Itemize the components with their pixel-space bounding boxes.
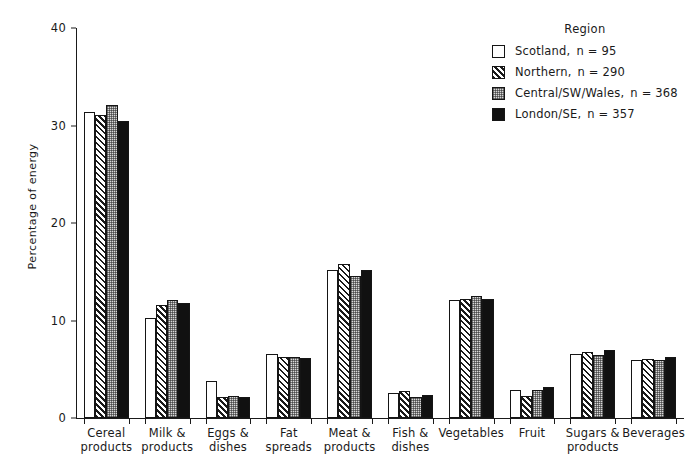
y-tick-label: 20 — [20, 216, 66, 230]
bar — [106, 105, 117, 418]
x-tick-mark — [433, 419, 434, 424]
bar — [178, 303, 189, 418]
legend-swatch — [492, 87, 505, 100]
x-tick-mark — [510, 419, 511, 424]
x-tick-mark — [494, 419, 495, 424]
bar — [449, 300, 460, 418]
bar — [239, 397, 250, 418]
bar — [145, 318, 156, 418]
legend-sample-size: n = 95 — [576, 44, 616, 58]
bar — [156, 305, 167, 418]
bar — [350, 276, 361, 418]
bar — [84, 112, 95, 418]
legend-item: London/SE,n = 357 — [492, 105, 678, 123]
legend-title: Region — [492, 22, 678, 36]
x-tick-mark — [554, 419, 555, 424]
bar — [642, 359, 653, 418]
bar — [604, 350, 615, 418]
bar — [570, 354, 581, 418]
bar — [582, 352, 593, 418]
bar — [338, 264, 349, 418]
x-tick-mark — [631, 419, 632, 424]
bar — [95, 115, 106, 418]
x-axis-label-line: products — [554, 441, 631, 455]
legend-item: Scotland,n = 95 — [492, 42, 678, 60]
legend-swatch — [492, 45, 505, 58]
x-tick-mark — [84, 419, 85, 424]
bar-group — [266, 28, 311, 418]
bar — [593, 355, 604, 418]
bar — [543, 387, 554, 418]
bar — [361, 270, 372, 418]
x-axis-label-line: dishes — [372, 441, 449, 455]
legend-swatch — [492, 66, 505, 79]
bar — [388, 393, 399, 418]
x-tick-mark — [327, 419, 328, 424]
bar — [327, 270, 338, 418]
legend-sample-size: n = 357 — [587, 107, 635, 121]
bar — [510, 390, 521, 418]
bar — [482, 299, 493, 418]
bar-group — [145, 28, 190, 418]
x-tick-mark — [145, 419, 146, 424]
legend-label: Northern, — [515, 65, 572, 79]
y-tick-label: 30 — [20, 119, 66, 133]
bar — [521, 396, 532, 418]
bar-group — [388, 28, 433, 418]
bar — [300, 358, 311, 418]
x-tick-mark — [206, 419, 207, 424]
bar-group — [449, 28, 494, 418]
bar — [289, 357, 300, 418]
x-tick-mark — [129, 419, 130, 424]
bar — [217, 397, 228, 418]
y-tick-label: 10 — [20, 314, 66, 328]
bar — [654, 360, 665, 418]
legend-label: Central/SW/Wales, — [515, 86, 624, 100]
x-tick-mark — [615, 419, 616, 424]
legend-label: London/SE, — [515, 107, 581, 121]
chart-legend: Region Scotland,n = 95Northern,n = 290Ce… — [492, 22, 678, 126]
x-tick-mark — [449, 419, 450, 424]
bar-group — [327, 28, 372, 418]
bar — [460, 299, 471, 418]
bar — [228, 396, 239, 418]
bar — [206, 381, 217, 418]
bar — [118, 121, 129, 418]
legend-label: Scotland, — [515, 44, 570, 58]
bar — [410, 397, 421, 418]
legend-item: Northern,n = 290 — [492, 63, 678, 81]
y-tick-label: 0 — [20, 411, 66, 425]
x-axis-label-line: Beverages — [615, 427, 688, 441]
bar — [631, 360, 642, 419]
bar — [278, 357, 289, 418]
x-tick-mark — [676, 419, 677, 424]
legend-sample-size: n = 368 — [630, 86, 678, 100]
bar — [665, 357, 676, 418]
bar-group — [84, 28, 129, 418]
bar — [266, 354, 277, 418]
x-tick-mark — [250, 419, 251, 424]
legend-swatch — [492, 108, 505, 121]
bar-chart: Percentage of energy 010203040 Cerealpro… — [0, 0, 688, 470]
legend-entries: Scotland,n = 95Northern,n = 290Central/S… — [492, 42, 678, 123]
x-tick-mark — [266, 419, 267, 424]
x-tick-mark — [372, 419, 373, 424]
bar — [167, 300, 178, 418]
x-axis-line — [76, 418, 684, 419]
legend-sample-size: n = 290 — [578, 65, 626, 79]
bar — [532, 390, 543, 418]
bar — [471, 296, 482, 418]
bar-group — [206, 28, 251, 418]
y-tick-label: 40 — [20, 21, 66, 35]
x-tick-mark — [570, 419, 571, 424]
x-tick-mark — [190, 419, 191, 424]
bar — [422, 395, 433, 418]
x-tick-mark — [388, 419, 389, 424]
x-axis-label: Beverages — [615, 427, 688, 441]
bar — [399, 391, 410, 418]
x-tick-mark — [311, 419, 312, 424]
legend-item: Central/SW/Wales,n = 368 — [492, 84, 678, 102]
